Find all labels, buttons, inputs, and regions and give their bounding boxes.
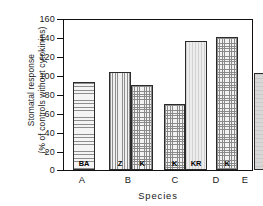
bar-D-K[interactable]: K bbox=[216, 37, 238, 170]
bar-label-E-Z: Z bbox=[255, 160, 263, 168]
bar-B-Z[interactable]: Z bbox=[109, 72, 131, 170]
bar-C-KR[interactable]: KR bbox=[185, 41, 207, 170]
bar-C-K[interactable]: K bbox=[164, 104, 185, 170]
bar-A-BA[interactable]: BA bbox=[73, 82, 95, 170]
y-tick-label-60: 60 bbox=[15, 110, 55, 119]
y-tick-label-120: 120 bbox=[15, 53, 55, 62]
y-tick-label-80: 80 bbox=[15, 91, 55, 100]
bar-B-K[interactable]: K bbox=[131, 85, 153, 170]
y-tick-label-100: 100 bbox=[15, 72, 55, 81]
y-tick-label-40: 40 bbox=[15, 129, 55, 138]
bar-label-B-Z: Z bbox=[110, 160, 130, 168]
bar-label-A-BA: BA bbox=[74, 160, 94, 168]
bar-label-C-K: K bbox=[165, 160, 184, 168]
x-label-B: B bbox=[108, 175, 148, 185]
bar-label-B-K: K bbox=[132, 160, 152, 168]
bars-container: BA Z K K KR K Z bbox=[64, 20, 251, 170]
y-tick-label-140: 140 bbox=[15, 34, 55, 43]
bar-label-C-KR: KR bbox=[186, 160, 206, 168]
bar-chart-figure: Stomatal response (% of controls without… bbox=[0, 0, 263, 206]
y-tick-label-20: 20 bbox=[15, 148, 55, 157]
bar-label-D-K: K bbox=[217, 160, 237, 168]
y-tick-label-0: 0 bbox=[15, 166, 55, 175]
x-label-A: A bbox=[62, 175, 102, 185]
x-label-C: C bbox=[155, 175, 195, 185]
x-axis-title: Species bbox=[63, 190, 253, 201]
bar-E-Z[interactable]: Z bbox=[254, 73, 263, 170]
y-tick-label-160: 160 bbox=[15, 15, 55, 24]
x-label-E: E bbox=[230, 175, 260, 185]
